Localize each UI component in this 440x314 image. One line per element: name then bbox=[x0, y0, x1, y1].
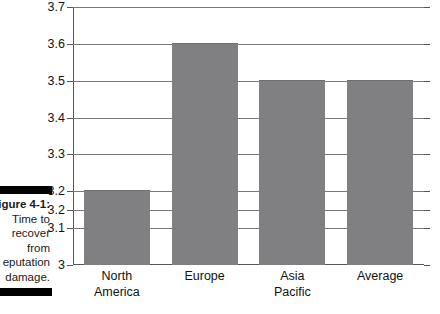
y-axis-label: 3.4 bbox=[48, 111, 65, 125]
y-axis-tick-right bbox=[424, 191, 430, 192]
x-axis-label-line: Europe bbox=[161, 268, 249, 284]
y-axis-label: 3.2 bbox=[48, 203, 65, 217]
y-axis-label: 3.2 bbox=[48, 184, 65, 198]
y-axis-tick-right bbox=[424, 265, 430, 266]
x-axis-label: NorthAmerica bbox=[73, 268, 161, 300]
y-axis-tick-right bbox=[424, 81, 430, 82]
y-axis-label: 3.5 bbox=[48, 74, 65, 88]
bar-average bbox=[347, 80, 413, 265]
x-axis-label-line: America bbox=[73, 284, 161, 300]
caption-line-1: Time to bbox=[0, 212, 50, 227]
y-axis-label: 3.7 bbox=[48, 0, 65, 14]
bar-north-america bbox=[84, 190, 150, 265]
y-axis-label: 3.6 bbox=[48, 37, 65, 51]
x-axis-label-line: Average bbox=[336, 268, 424, 284]
y-axis-tick-right bbox=[424, 228, 430, 229]
figure-caption: igure 4-1: Time to recover from eputatio… bbox=[0, 186, 52, 296]
caption-rule-bottom bbox=[0, 288, 52, 296]
bar-europe bbox=[172, 43, 238, 265]
y-axis-tick-right bbox=[424, 118, 430, 119]
y-axis-tick-right bbox=[424, 154, 430, 155]
caption-line-2: recover bbox=[0, 226, 50, 241]
chart-plot-area: 3.73.63.53.43.33.23.23.13 bbox=[73, 7, 424, 265]
chart-x-axis-labels: NorthAmericaEuropeAsiaPacificAverage bbox=[73, 268, 424, 314]
x-axis-label-line: Asia bbox=[249, 268, 337, 284]
x-axis-label: AsiaPacific bbox=[249, 268, 337, 300]
caption-line-3: from bbox=[0, 241, 50, 256]
y-axis-label: 3 bbox=[58, 258, 65, 272]
y-axis-label: 3.1 bbox=[48, 221, 65, 235]
y-axis-tick bbox=[67, 265, 73, 266]
x-axis-label: Average bbox=[336, 268, 424, 284]
x-axis-label: Europe bbox=[161, 268, 249, 284]
caption-line-5: damage. bbox=[0, 270, 50, 285]
y-axis-label: 3.3 bbox=[48, 147, 65, 161]
figure-container: igure 4-1: Time to recover from eputatio… bbox=[0, 0, 440, 314]
y-axis-tick-right bbox=[424, 44, 430, 45]
chart-bars bbox=[73, 7, 424, 265]
y-axis-tick-right bbox=[424, 210, 430, 211]
caption-line-4: eputation bbox=[0, 255, 50, 270]
x-axis-label-line: Pacific bbox=[249, 284, 337, 300]
caption-rule-top bbox=[0, 186, 52, 194]
x-axis-label-line: North bbox=[73, 268, 161, 284]
bar-asia-pacific bbox=[259, 80, 325, 265]
y-axis-tick-right bbox=[424, 7, 430, 8]
caption-line-0: igure 4-1: bbox=[0, 197, 50, 212]
caption-text: igure 4-1: Time to recover from eputatio… bbox=[0, 194, 52, 285]
